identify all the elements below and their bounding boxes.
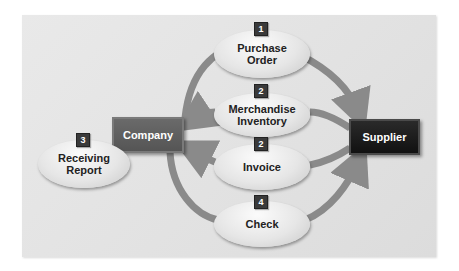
merchandise-inventory-ellipse: Merchandise Inventory — [214, 93, 310, 137]
step-badge-receiving: 3 — [76, 133, 90, 147]
receiving-line2: Report — [66, 164, 101, 176]
merchandise-line1: Merchandise — [228, 103, 295, 115]
step-badge-check: 4 — [254, 195, 268, 209]
merchandise-line2: Inventory — [237, 115, 287, 127]
purchase-order-line1: Purchase — [237, 42, 287, 54]
invoice-label: Invoice — [243, 161, 281, 173]
receiving-line1: Receiving — [58, 152, 110, 164]
purchase-order-line2: Order — [247, 54, 277, 66]
supplier-box: Supplier — [349, 119, 420, 155]
receiving-report-ellipse: Receiving Report — [38, 140, 130, 188]
step-badge-merchandise: 2 — [254, 84, 268, 98]
purchase-order-ellipse: Purchase Order — [214, 30, 310, 78]
company-label: Company — [123, 129, 173, 141]
supplier-label: Supplier — [362, 131, 406, 143]
step-badge-invoice: 2 — [254, 137, 268, 151]
check-label: Check — [245, 218, 278, 230]
company-box: Company — [112, 117, 184, 153]
step-badge-purchase-order: 1 — [254, 22, 268, 36]
